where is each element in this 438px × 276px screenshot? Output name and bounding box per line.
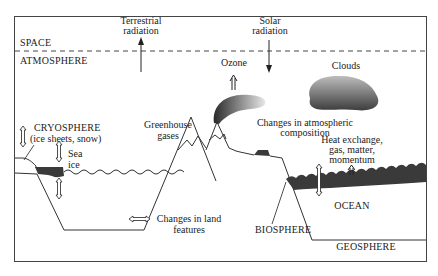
double-up-arrow-icon <box>230 75 237 90</box>
atmosphere-label: ATMOSPHERE <box>20 55 88 66</box>
greenhouse-label-2: gases <box>157 130 179 141</box>
geosphere-label: GEOSPHERE <box>336 241 396 252</box>
double-horizontal-arrow-icon <box>129 216 150 222</box>
sea-ice-label-1: Sea <box>68 148 83 159</box>
land-features-label-2: features <box>173 224 205 235</box>
cloud-shape <box>309 76 378 110</box>
cryosphere-sub-label: (ice sheets, snow) <box>30 133 101 145</box>
mountain-right <box>206 122 240 152</box>
ocean-surface-band <box>286 163 426 190</box>
biosphere-pointer <box>272 182 286 224</box>
biosphere-label: BIOSPHERE <box>255 224 311 235</box>
pointer-line <box>24 145 34 160</box>
plateau-edge <box>270 156 282 158</box>
sea-ice-slab <box>35 167 64 177</box>
double-vertical-arrow-icon <box>56 178 62 199</box>
plateau-structure <box>254 150 270 156</box>
double-vertical-arrow-icon <box>56 141 62 162</box>
sea-ice-label-2: ice <box>68 159 80 170</box>
land-surface-left <box>15 173 37 174</box>
double-vertical-arrow-icon <box>20 126 26 147</box>
terrestrial-radiation-label-2: radiation <box>123 25 159 36</box>
ocean-label: OCEAN <box>334 200 369 211</box>
heat-exchange-label-3: momentum <box>329 154 375 165</box>
space-label: SPACE <box>20 37 51 48</box>
down-arrow-icon <box>266 40 272 73</box>
up-arrow-icon <box>138 37 144 72</box>
plateau <box>240 152 254 155</box>
greenhouse-label-1: Greenhouse <box>144 119 192 130</box>
land-features-label-1: Changes in land <box>157 213 221 224</box>
sea-surface-left <box>64 170 184 174</box>
cryosphere-label: CRYOSPHERE <box>34 122 100 133</box>
solar-radiation-label-2: radiation <box>252 25 288 36</box>
climate-system-diagram: SPACE ATMOSPHERE Terrestrial radiation S… <box>0 0 438 276</box>
ozone-label: Ozone <box>221 57 248 68</box>
ice-sheet-surface <box>15 158 36 168</box>
clouds-label: Clouds <box>332 60 360 71</box>
